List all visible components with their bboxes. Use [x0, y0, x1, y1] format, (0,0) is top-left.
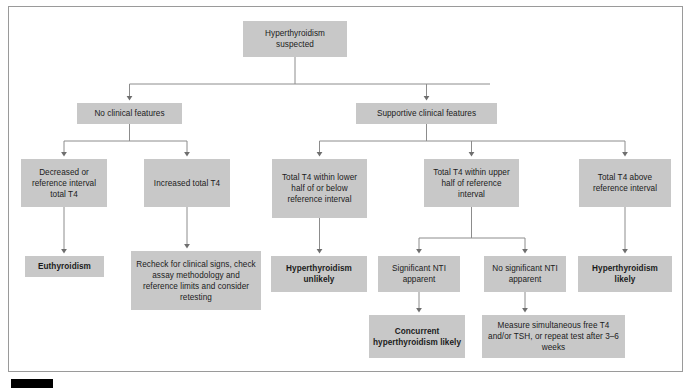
node-hyperthyroidism-unlikely: Hyperthyroidism unlikely [271, 256, 367, 292]
node-label: Total T4 within lower half of or below r… [275, 172, 364, 205]
node-measure-simultaneous-free-t4: Measure simultaneous free T4 and/or TSH,… [482, 315, 625, 358]
node-label: Recheck for clinical signs, check assay … [134, 259, 258, 303]
node-no-clinical-features: No clinical features [77, 103, 182, 124]
node-label: No clinical features [80, 108, 179, 119]
node-label: No significant NTI apparent [487, 263, 563, 285]
node-label: Total T4 above reference interval [582, 172, 668, 194]
node-label: Increased total T4 [147, 178, 227, 189]
caption-rule-bar [11, 379, 53, 388]
node-significant-nti-apparent: Significant NTI apparent [378, 256, 460, 292]
node-label: Supportive clinical features [359, 108, 494, 119]
node-label: Total T4 within upper half of reference … [427, 167, 516, 200]
node-hyperthyroidism-likely: Hyperthyroidism likely [578, 256, 672, 292]
node-label: Hyperthyroidism unlikely [274, 263, 364, 285]
node-no-significant-nti-apparent: No significant NTI apparent [484, 256, 566, 292]
node-label: Hyperthyroidism likely [581, 263, 669, 285]
node-label: Hyperthyroidism suspected [246, 28, 344, 50]
node-hyperthyroidism-suspected: Hyperthyroidism suspected [243, 21, 347, 57]
node-recheck-clinical-signs: Recheck for clinical signs, check assay … [131, 251, 261, 310]
node-supportive-clinical-features: Supportive clinical features [356, 103, 497, 124]
node-total-t4-upper-half: Total T4 within upper half of reference … [424, 159, 519, 207]
node-euthyroidism: Euthyroidism [25, 256, 104, 277]
node-decreased-or-reference-interval-total-t4: Decreased or reference interval total T4 [21, 159, 107, 207]
node-increased-total-t4: Increased total T4 [144, 159, 230, 207]
node-total-t4-lower-half-or-below: Total T4 within lower half of or below r… [272, 159, 367, 218]
node-label: Euthyroidism [28, 261, 101, 272]
node-total-t4-above-reference: Total T4 above reference interval [579, 159, 671, 207]
node-concurrent-hyperthyroidism-likely: Concurrent hyperthyroidism likely [369, 315, 465, 358]
node-label: Measure simultaneous free T4 and/or TSH,… [485, 320, 622, 353]
node-label: Significant NTI apparent [381, 263, 457, 285]
node-label: Concurrent hyperthyroidism likely [372, 326, 462, 348]
node-label: Decreased or reference interval total T4 [24, 167, 104, 200]
flowchart-figure: Hyperthyroidism suspected No clinical fe… [0, 0, 693, 392]
